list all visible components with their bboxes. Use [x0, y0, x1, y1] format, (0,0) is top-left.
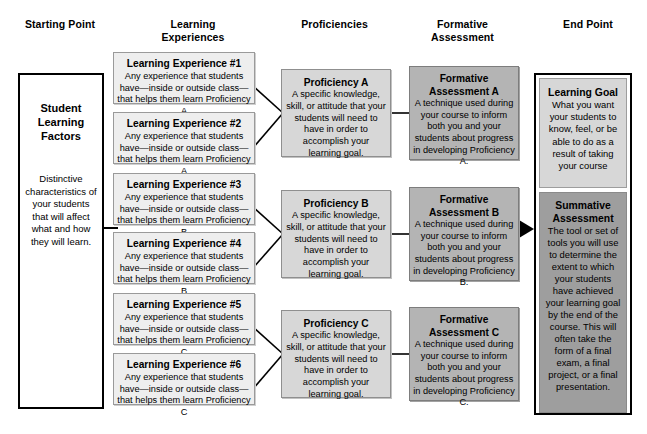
- formative-assessment-box-c[interactable]: Formative Assessment C A technique used …: [409, 307, 519, 401]
- learning-experience-title: Learning Experience #3: [117, 178, 251, 191]
- formative-assessment-description: A technique used during your course to i…: [413, 98, 515, 168]
- learning-experience-title: Learning Experience #6: [117, 358, 251, 371]
- learning-experience-title: Learning Experience #4: [117, 237, 251, 250]
- proficiency-title: Proficiency A: [286, 76, 386, 89]
- proficiency-description: A specific knowledge, skill, or attitude…: [286, 330, 386, 401]
- learning-experience-title: Learning Experience #2: [117, 117, 251, 130]
- learning-goal-title: Learning Goal: [545, 86, 621, 99]
- learning-experience-box-3[interactable]: Learning Experience #3 Any experience th…: [113, 173, 255, 225]
- formative-assessment-description: A technique used during your course to i…: [413, 339, 515, 409]
- formative-assessment-description: A technique used during your course to i…: [413, 219, 515, 289]
- proficiency-description: A specific knowledge, skill, or attitude…: [286, 210, 386, 281]
- summative-assessment-title-line2: Assessment: [545, 213, 621, 226]
- learning-experience-description: Any experience that students have—inside…: [117, 71, 251, 117]
- formative-assessment-title-line1: Formative: [413, 194, 515, 207]
- learning-experience-box-2[interactable]: Learning Experience #2 Any experience th…: [113, 112, 255, 164]
- slf-title-line1: Student: [38, 101, 84, 115]
- formative-assessment-title-line1: Formative: [413, 73, 515, 86]
- slf-title-line3: Factors: [38, 129, 84, 143]
- student-learning-factors-description: Distinctive characteristics of your stud…: [20, 173, 102, 248]
- proficiency-title: Proficiency C: [286, 317, 386, 330]
- formative-assessment-title-line1: Formative: [413, 314, 515, 327]
- proficiency-title: Proficiency B: [286, 197, 386, 210]
- learning-experience-description: Any experience that students have—inside…: [117, 312, 251, 358]
- formative-assessment-title-line2: Assessment B: [413, 207, 515, 220]
- formative-assessment-box-a[interactable]: Formative Assessment A A technique used …: [409, 66, 519, 160]
- formative-assessment-title-line2: Assessment C: [413, 327, 515, 340]
- proficiency-description: A specific knowledge, skill, or attitude…: [286, 89, 386, 160]
- proficiency-box-c[interactable]: Proficiency C A specific knowledge, skil…: [281, 310, 391, 398]
- learning-experience-description: Any experience that students have—inside…: [117, 131, 251, 177]
- learning-experience-box-1[interactable]: Learning Experience #1 Any experience th…: [113, 52, 255, 104]
- learning-experience-description: Any experience that students have—inside…: [117, 372, 251, 418]
- formative-assessment-box-b[interactable]: Formative Assessment B A technique used …: [409, 187, 519, 281]
- formative-assessment-title-line2: Assessment A: [413, 86, 515, 99]
- learning-experience-box-6[interactable]: Learning Experience #6 Any experience th…: [113, 353, 255, 405]
- summative-assessment-box[interactable]: Summative Assessment The tool or set of …: [539, 192, 627, 413]
- learning-goal-description: What you want your students to know, fee…: [545, 99, 621, 172]
- proficiency-box-b[interactable]: Proficiency B A specific knowledge, skil…: [281, 190, 391, 278]
- diagram-canvas: Starting Point Learning Experiences Prof…: [0, 0, 647, 434]
- summative-assessment-description: The tool or set of tools you will use to…: [545, 225, 621, 393]
- learning-experience-box-5[interactable]: Learning Experience #5 Any experience th…: [113, 293, 255, 345]
- student-learning-factors-title: Student Learning Factors: [38, 101, 84, 143]
- learning-experience-title: Learning Experience #1: [117, 57, 251, 70]
- learning-goal-box[interactable]: Learning Goal What you want your student…: [539, 78, 627, 188]
- end-point-box[interactable]: Learning Goal What you want your student…: [534, 73, 632, 415]
- learning-experience-title: Learning Experience #5: [117, 298, 251, 311]
- summative-assessment-title-line1: Summative: [545, 200, 621, 213]
- slf-title-line2: Learning: [38, 115, 84, 129]
- learning-experience-box-4[interactable]: Learning Experience #4 Any experience th…: [113, 232, 255, 284]
- proficiency-box-a[interactable]: Proficiency A A specific knowledge, skil…: [281, 69, 391, 157]
- learning-experience-description: Any experience that students have—inside…: [117, 251, 251, 297]
- student-learning-factors-box[interactable]: Student Learning Factors Distinctive cha…: [18, 73, 104, 409]
